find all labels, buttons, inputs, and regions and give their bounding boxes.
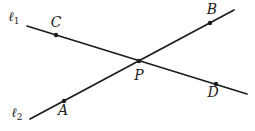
line2-label: ℓ2 <box>11 106 22 119</box>
point-label-C: C <box>51 15 62 29</box>
point-dot-C <box>54 33 58 37</box>
point-label-B: B <box>207 2 217 16</box>
diagram-canvas <box>0 0 255 131</box>
point-dot-B <box>208 21 212 25</box>
line1-label: ℓ1 <box>8 10 19 23</box>
geometry-diagram: ℓ1 ℓ2 C B P A D <box>0 0 255 131</box>
point-label-P: P <box>134 68 143 82</box>
point-label-D: D <box>207 85 218 99</box>
point-label-A: A <box>58 103 68 117</box>
line2-subscript: 2 <box>17 112 23 122</box>
line1-subscript: 1 <box>14 16 20 26</box>
point-dot-P <box>137 59 141 63</box>
